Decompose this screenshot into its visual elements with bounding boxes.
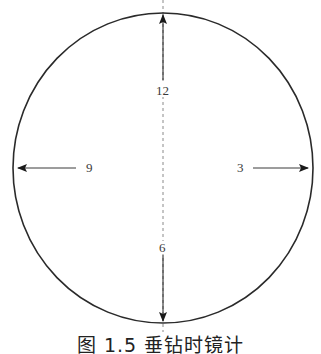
label-twelve: 12 [155,84,170,97]
label-six: 6 [158,241,167,254]
figure-page: 12 3 6 9 图 1.5 垂钻时镜计 [0,0,321,354]
figure-caption: 图 1.5 垂钻时镜计 [0,336,321,354]
clock-diagram [0,0,321,354]
label-nine: 9 [85,161,94,174]
label-three: 3 [236,161,245,174]
